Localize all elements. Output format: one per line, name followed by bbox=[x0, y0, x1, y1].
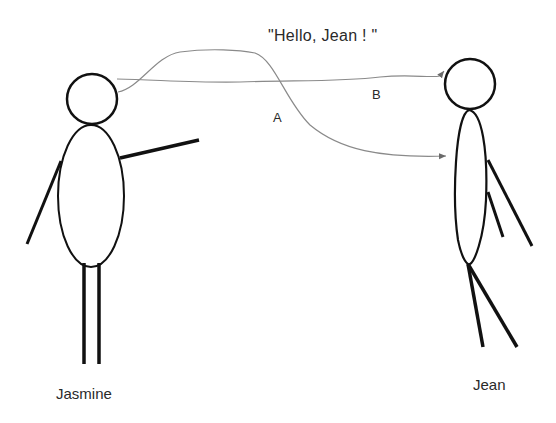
path-b-label: B bbox=[372, 87, 381, 102]
jasmine-head bbox=[67, 74, 117, 124]
jasmine-figure bbox=[27, 74, 199, 364]
jasmine-right-arm bbox=[120, 140, 199, 158]
path-a-label: A bbox=[273, 110, 282, 125]
jean-head bbox=[445, 59, 495, 109]
jasmine-left-arm bbox=[27, 161, 61, 244]
path-a-arrow bbox=[118, 50, 446, 157]
jean-arm-inner bbox=[488, 192, 503, 237]
jean-body bbox=[455, 110, 486, 264]
jean-figure bbox=[445, 59, 532, 347]
jasmine-name-label: Jasmine bbox=[56, 385, 112, 402]
path-b-arrow bbox=[117, 71, 444, 82]
jean-arm-outer bbox=[488, 160, 532, 246]
jasmine-body bbox=[58, 125, 124, 267]
jean-name-label: Jean bbox=[473, 376, 506, 393]
message-text: "Hello, Jean ! " bbox=[268, 27, 378, 45]
diagram-canvas bbox=[0, 0, 556, 423]
